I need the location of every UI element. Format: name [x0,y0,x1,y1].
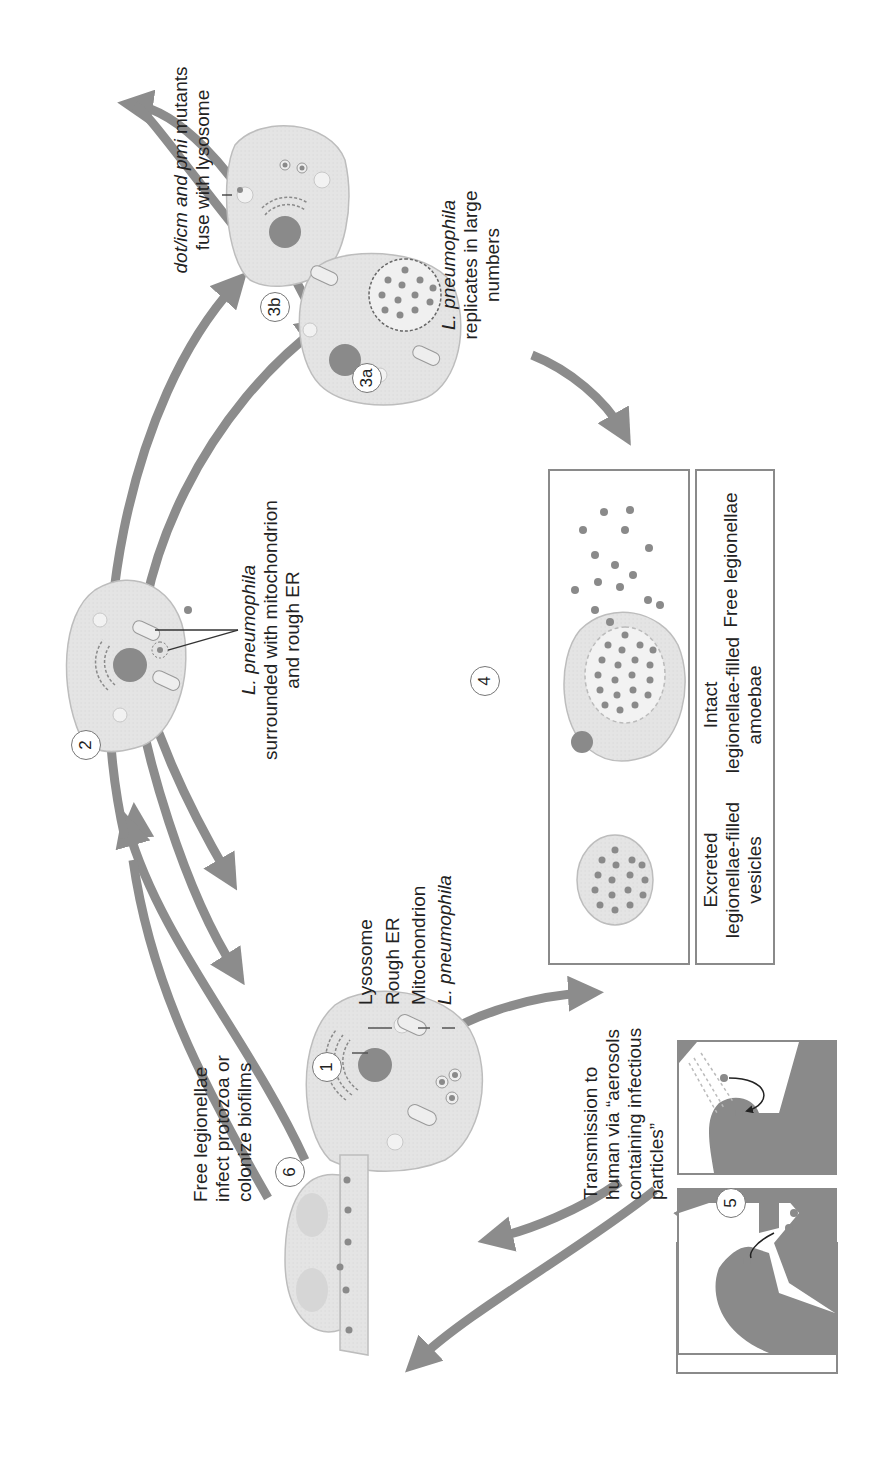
step-badge-1: 1 [312,1052,342,1082]
cell-step1 [306,991,482,1171]
caption-step3b: dot/icm and pmi mutants fuse with lysoso… [170,67,214,274]
life-cycle-diagram: 1 2 3a 3b 4 5 6 Lysosome Rough ER Mitoch… [0,0,879,1460]
step-badge-3b: 3b [260,292,290,322]
caption-step2: L. pneumophila surrounded with mitochond… [238,500,304,760]
label-rough-er: Rough ER [382,917,404,1005]
label-lysosome: Lysosome [355,919,377,1005]
caption-step3a: L. pneumophila replicates in large numbe… [438,191,504,340]
step-badge-6: 6 [275,1157,305,1187]
step4-image-frame [548,469,690,965]
caption-step6: Free legionellae infect protozoa or colo… [190,1055,256,1202]
step-badge-5: 5 [716,1188,746,1218]
label-l-pneumophila: L. pneumophila [434,875,456,1005]
aerosol-scene-shower [677,1040,837,1175]
label-mitochondrion: Mitochondrion [408,886,430,1005]
label-intact-amoebae: Intact legionellae-filled amoebae [700,637,766,773]
label-excreted-vesicles: Excreted legionellae-filled vesicles [700,802,766,938]
caption-step5: Transmission to human via “aerosols cont… [580,1028,668,1200]
step-badge-2: 2 [71,730,101,760]
label-free-legionellae: Free legionellae [720,492,742,627]
step-badge-4: 4 [470,666,500,696]
step-badge-3a: 3a [352,363,382,393]
aerosol-scene-sink [677,1188,837,1355]
arrow-step3a-to-step4 [532,355,622,430]
arrow-step2-to-step3b [108,285,235,838]
arrow-step4-to-step6 [418,1190,655,1360]
cell-step2 [66,580,238,751]
